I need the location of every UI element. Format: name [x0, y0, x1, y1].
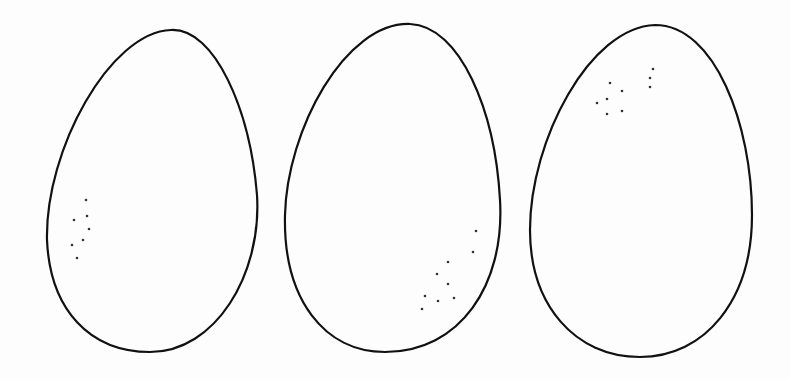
egg-2-outline: [285, 24, 500, 352]
egg-1-speckle-dot: [76, 257, 79, 260]
egg-2-speckle-dot: [472, 251, 475, 254]
egg-2-speckle-dot: [436, 273, 439, 276]
egg-2-speckle-dot: [447, 261, 450, 264]
egg-3-speckle-dot: [649, 86, 652, 89]
egg-2-speckle-dot: [475, 230, 478, 233]
egg-3-speckle-dot: [596, 102, 599, 105]
egg-3-speckle-dot: [652, 68, 655, 71]
egg-1-speckle-dot: [88, 228, 91, 231]
egg-2-speckle-dot: [453, 297, 456, 300]
egg-1-speckle-dot: [86, 215, 89, 218]
egg-2-speckle-dot: [424, 295, 427, 298]
egg-3-speckle-dot: [621, 90, 624, 93]
egg-1-speckle-dot: [71, 244, 74, 247]
egg-1-outline: [47, 30, 257, 352]
egg-1-group: [47, 30, 257, 352]
egg-3-speckle-dot: [609, 82, 612, 85]
eggs-illustration: [0, 0, 790, 379]
egg-3-speckle-dot: [649, 77, 652, 80]
egg-1-speckle-dot: [82, 239, 85, 242]
egg-3-group: [530, 25, 752, 357]
egg-2-speckle-dot: [437, 300, 440, 303]
egg-2-speckle-dot: [447, 283, 450, 286]
egg-drawing-canvas: [0, 0, 790, 379]
egg-1-speckle-dot: [85, 199, 88, 202]
egg-1-speckle-dot: [73, 219, 76, 222]
egg-3-speckle-dot: [606, 98, 609, 101]
egg-2-group: [285, 24, 500, 352]
egg-3-outline: [530, 25, 752, 357]
egg-3-speckle-dot: [606, 113, 609, 116]
egg-3-speckle-dot: [621, 110, 624, 113]
egg-2-speckle-dot: [421, 308, 424, 311]
